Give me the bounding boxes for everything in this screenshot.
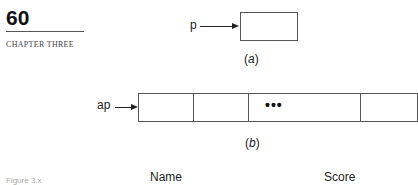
pointer-label-ap: ap <box>97 98 110 112</box>
single-cell-box <box>240 12 298 41</box>
caption-b: (b) <box>245 136 260 150</box>
arrow-head-icon <box>232 23 239 29</box>
cell-divider <box>193 93 194 122</box>
cell-divider <box>248 93 249 122</box>
arrow-head-icon <box>131 104 138 110</box>
chapter-title: CHAPTER THREE <box>6 40 74 49</box>
header-rule <box>6 31 84 32</box>
column-header-score: Score <box>324 170 355 184</box>
figure-label: Figure 3.x <box>6 176 42 185</box>
page-number: 60 <box>6 6 29 30</box>
pointer-arrow-line <box>200 26 232 27</box>
caption-a: (a) <box>244 52 259 66</box>
ellipsis: ••• <box>265 97 283 113</box>
cell-divider <box>360 93 361 122</box>
pointer-arrow-line <box>115 107 131 108</box>
column-header-name: Name <box>150 170 182 184</box>
pointer-label-p: p <box>190 18 197 32</box>
